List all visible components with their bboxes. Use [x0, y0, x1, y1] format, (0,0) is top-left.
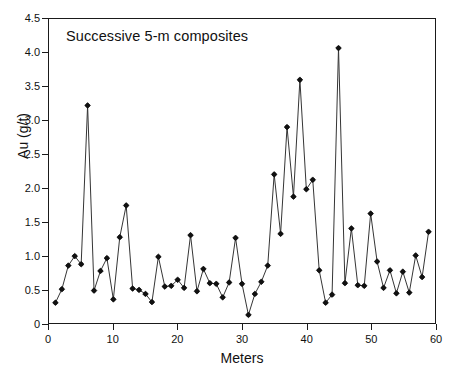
- x-tick-label: 0: [45, 333, 51, 345]
- y-axis-title: Au (g/t): [15, 71, 31, 201]
- data-point-core: [401, 270, 405, 274]
- chart-figure: 00.51.01.52.02.53.03.54.04.5 Au (g/t) Su…: [0, 0, 454, 373]
- data-point-core: [349, 227, 353, 231]
- x-tick-mark: [436, 324, 437, 330]
- data-point-core: [169, 284, 173, 288]
- data-point-core: [221, 295, 225, 299]
- data-point-core: [330, 293, 334, 297]
- data-point-core: [150, 300, 154, 304]
- data-point-core: [79, 262, 83, 266]
- data-point-core: [266, 264, 270, 268]
- x-tick-label: 30: [236, 333, 248, 345]
- data-point-core: [272, 172, 276, 176]
- data-point-core: [99, 269, 103, 273]
- data-point-core: [407, 291, 411, 295]
- plot-title: Successive 5-m composites: [66, 28, 248, 44]
- y-tick-label: 1.0: [25, 250, 40, 262]
- data-series-svg: [49, 19, 435, 323]
- data-point-core: [317, 268, 321, 272]
- data-point-core: [279, 232, 283, 236]
- data-point-core: [324, 301, 328, 305]
- x-tick-label: 20: [171, 333, 183, 345]
- x-tick-mark: [242, 324, 243, 330]
- data-point-core: [105, 256, 109, 260]
- y-tick-label: 0: [34, 318, 40, 330]
- data-point-core: [247, 313, 251, 317]
- data-point-core: [375, 260, 379, 264]
- data-point-core: [253, 292, 257, 296]
- data-point-core: [388, 268, 392, 272]
- x-tick-mark: [48, 324, 49, 330]
- data-point-core: [195, 289, 199, 293]
- data-point-core: [414, 254, 418, 258]
- data-point-core: [118, 235, 122, 239]
- data-point-core: [163, 285, 167, 289]
- data-point-core: [227, 281, 231, 285]
- data-point-core: [285, 125, 289, 129]
- data-point-core: [156, 255, 160, 259]
- data-point-core: [420, 275, 424, 279]
- data-point-core: [304, 187, 308, 191]
- x-tick-label: 50: [365, 333, 377, 345]
- data-point-core: [111, 297, 115, 301]
- data-point-core: [189, 233, 193, 237]
- data-point-core: [292, 195, 296, 199]
- data-point-core: [259, 280, 263, 284]
- y-tick-label: 4.0: [25, 46, 40, 58]
- data-point-core: [92, 289, 96, 293]
- x-tick-mark: [371, 324, 372, 330]
- x-tick-mark: [113, 324, 114, 330]
- data-point-core: [124, 204, 128, 208]
- data-point-core: [214, 282, 218, 286]
- data-point-core: [362, 284, 366, 288]
- y-tick-label: 4.5: [25, 12, 40, 24]
- data-point-core: [176, 278, 180, 282]
- x-axis-title: Meters: [48, 350, 436, 366]
- data-point-core: [66, 264, 70, 268]
- series-line: [55, 48, 428, 315]
- x-tick-label: 10: [107, 333, 119, 345]
- x-tick-mark: [307, 324, 308, 330]
- data-point-core: [60, 287, 64, 291]
- data-point-core: [382, 286, 386, 290]
- data-point-core: [240, 282, 244, 286]
- data-point-core: [86, 104, 90, 108]
- data-point-core: [395, 291, 399, 295]
- data-point-core: [369, 212, 373, 216]
- data-point-core: [144, 292, 148, 296]
- x-tick-mark: [177, 324, 178, 330]
- data-point-core: [182, 286, 186, 290]
- data-point-core: [202, 267, 206, 271]
- data-point-core: [54, 301, 58, 305]
- data-point-core: [73, 254, 77, 258]
- plot-area: [48, 18, 436, 324]
- data-point-core: [208, 281, 212, 285]
- y-tick-label: 0.5: [25, 284, 40, 296]
- data-point-core: [427, 230, 431, 234]
- data-point-core: [298, 78, 302, 82]
- data-point-core: [343, 281, 347, 285]
- data-point-core: [311, 178, 315, 182]
- data-point-core: [234, 236, 238, 240]
- y-tick-label: 1.5: [25, 216, 40, 228]
- data-point-core: [356, 283, 360, 287]
- x-tick-label: 60: [430, 333, 442, 345]
- x-tick-label: 40: [301, 333, 313, 345]
- data-point-core: [337, 46, 341, 50]
- data-point-core: [131, 287, 135, 291]
- data-point-core: [137, 288, 141, 292]
